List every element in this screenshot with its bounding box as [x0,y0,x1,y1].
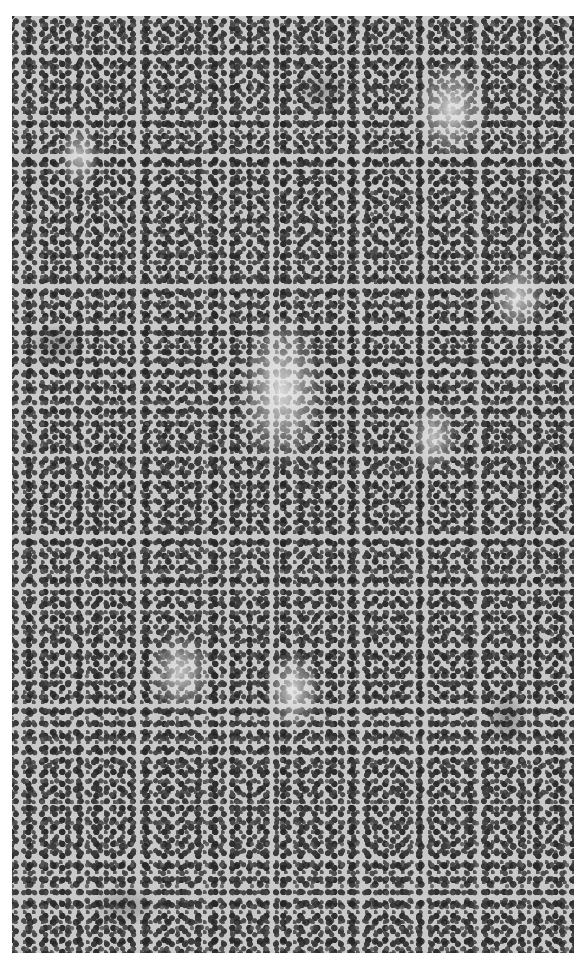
pale-stroma-patches [12,16,574,953]
page [0,0,586,970]
histology-micrograph [12,16,574,953]
clipped-caption [14,958,572,970]
